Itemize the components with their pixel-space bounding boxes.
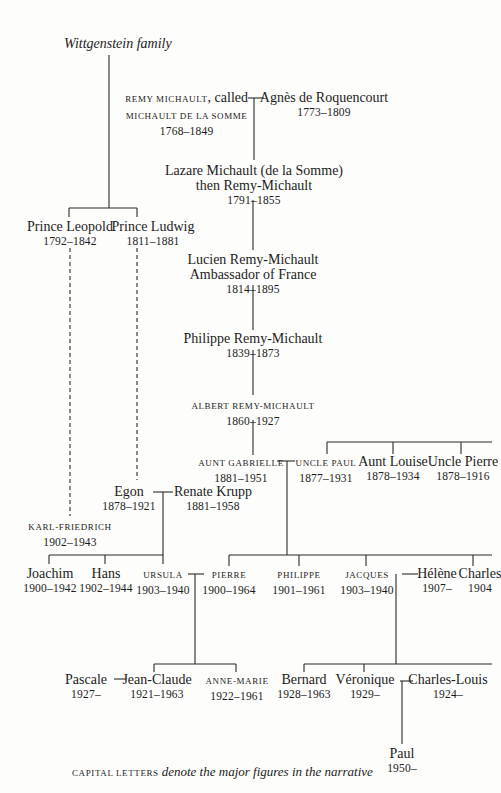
person-name: Paul xyxy=(387,746,417,761)
person-dates: 1814–1895 xyxy=(187,282,318,297)
person-dates: 1839–1873 xyxy=(184,346,323,361)
person-dates: 1791–1855 xyxy=(165,193,343,208)
person-name: Renate Krupp xyxy=(174,484,252,499)
person-name-smallcaps: REMY MICHAULT xyxy=(125,94,207,104)
person-dates: 1768–1849 xyxy=(125,124,248,139)
person-name: Hans xyxy=(79,566,133,581)
person-lucien-remy-michault: Lucien Remy-Michault Ambassador of Franc… xyxy=(187,252,318,297)
legend-caption: CAPITAL LETTERS denote the major figures… xyxy=(72,764,373,780)
person-karl-friedrich: KARL-FRIEDRICH 1902–1943 xyxy=(28,518,111,550)
person-philippe-remy-michault-sr: Philippe Remy-Michault 1839–1873 xyxy=(184,331,323,361)
person-subtitle: Ambassador of France xyxy=(187,267,318,282)
person-name: Pascale xyxy=(65,672,107,687)
person-charles: Charles 1904 xyxy=(459,566,501,596)
person-dates: 1922–1961 xyxy=(206,689,269,704)
person-name: PHILIPPE xyxy=(277,570,320,580)
legend-description: denote the major figures in the narrativ… xyxy=(162,764,373,779)
person-dates: 1927– xyxy=(65,687,107,702)
person-jean-claude: Jean-Claude 1921–1963 xyxy=(122,672,191,702)
wittgenstein-family-heading: Wittgenstein family xyxy=(64,36,172,52)
person-name: UNCLE PAUL xyxy=(296,458,357,468)
person-egon: Egon 1878–1921 xyxy=(102,484,156,514)
person-name: ANNE-MARIE xyxy=(206,676,269,686)
person-aunt-gabrielle: AUNT GABRIELLE 1881–1951 xyxy=(198,454,283,486)
person-name: JACQUES xyxy=(345,570,389,580)
legend-smallcaps-label: CAPITAL LETTERS xyxy=(72,768,159,778)
person-charles-louis: Charles-Louis 1924– xyxy=(408,672,487,702)
person-subtitle: then Remy-Michault xyxy=(165,178,343,193)
person-paul: Paul 1950– xyxy=(387,746,417,776)
person-dates: 1928–1963 xyxy=(277,687,331,702)
person-dates: 1950– xyxy=(387,761,417,776)
person-dates: 1860–1927 xyxy=(191,414,314,429)
person-name: KARL-FRIEDRICH xyxy=(28,522,111,532)
person-bernard: Bernard 1928–1963 xyxy=(277,672,331,702)
person-dates: 1878–1921 xyxy=(102,499,156,514)
person-agnes-de-roquencourt: Agnès de Roquencourt 1773–1809 xyxy=(260,90,388,120)
person-name: Prince Leopold xyxy=(27,219,113,234)
person-helene: Hélène 1907– xyxy=(417,566,457,596)
person-name: Lazare Michault (de la Somme) xyxy=(165,163,343,178)
person-remy-michault: REMY MICHAULT, called MICHAULT DE LA SOM… xyxy=(125,90,248,139)
person-name: Charles xyxy=(459,566,501,581)
person-name: Lucien Remy-Michault xyxy=(187,252,318,267)
person-joachim: Joachim 1900–1942 xyxy=(23,566,77,596)
person-name: Jean-Claude xyxy=(122,672,191,687)
person-name: PIERRE xyxy=(212,570,247,580)
person-name: Egon xyxy=(102,484,156,499)
person-name: Uncle Pierre xyxy=(428,454,498,469)
person-philippe: PHILIPPE 1901–1961 xyxy=(272,566,326,598)
person-name-suffix: , called xyxy=(208,90,248,105)
person-dates: 1903–1940 xyxy=(340,583,394,598)
person-prince-ludwig: Prince Ludwig 1811–1881 xyxy=(112,219,195,249)
person-uncle-pierre: Uncle Pierre 1878–1916 xyxy=(428,454,498,484)
person-uncle-paul: UNCLE PAUL 1877–1931 xyxy=(296,454,357,486)
person-dates: 1878–1916 xyxy=(428,469,498,484)
person-dates: 1773–1809 xyxy=(260,105,388,120)
person-alias: MICHAULT DE LA SOMME xyxy=(126,111,248,121)
person-name: Philippe Remy-Michault xyxy=(184,331,323,346)
person-dates: 1877–1931 xyxy=(296,471,357,486)
person-dates: 1901–1961 xyxy=(272,583,326,598)
person-name: Bernard xyxy=(277,672,331,687)
person-dates: 1811–1881 xyxy=(112,234,195,249)
person-albert-remy-michault: ALBERT REMY-MICHAULT 1860–1927 xyxy=(191,397,314,429)
person-name: Prince Ludwig xyxy=(112,219,195,234)
person-pierre: PIERRE 1900–1964 xyxy=(202,566,256,598)
person-name: Joachim xyxy=(23,566,77,581)
person-lazare-michault: Lazare Michault (de la Somme) then Remy-… xyxy=(165,163,343,208)
person-name: Aunt Louise xyxy=(358,454,428,469)
person-dates: 1881–1958 xyxy=(174,499,252,514)
person-dates: 1903–1940 xyxy=(136,583,190,598)
person-hans: Hans 1902–1944 xyxy=(79,566,133,596)
person-name: AUNT GABRIELLE xyxy=(198,458,283,468)
person-dates: 1904 xyxy=(459,581,501,596)
person-dates: 1902–1943 xyxy=(28,535,111,550)
person-dates: 1907– xyxy=(417,581,457,596)
person-veronique: Véronique 1929– xyxy=(335,672,394,702)
person-name: URSULA xyxy=(143,570,183,580)
person-dates: 1924– xyxy=(408,687,487,702)
person-dates: 1878–1934 xyxy=(358,469,428,484)
person-ursula: URSULA 1903–1940 xyxy=(136,566,190,598)
person-dates: 1792–1842 xyxy=(27,234,113,249)
person-pascale: Pascale 1927– xyxy=(65,672,107,702)
person-name: Charles-Louis xyxy=(408,672,487,687)
person-name: Agnès de Roquencourt xyxy=(260,90,388,105)
person-anne-marie: ANNE-MARIE 1922–1961 xyxy=(206,672,269,704)
person-name: ALBERT REMY-MICHAULT xyxy=(191,401,314,411)
person-dates: 1921–1963 xyxy=(122,687,191,702)
person-dates: 1902–1944 xyxy=(79,581,133,596)
person-dates: 1900–1942 xyxy=(23,581,77,596)
person-renate-krupp: Renate Krupp 1881–1958 xyxy=(174,484,252,514)
person-aunt-louise: Aunt Louise 1878–1934 xyxy=(358,454,428,484)
person-dates: 1900–1964 xyxy=(202,583,256,598)
person-prince-leopold: Prince Leopold 1792–1842 xyxy=(27,219,113,249)
person-dates: 1929– xyxy=(335,687,394,702)
person-name: Hélène xyxy=(417,566,457,581)
person-jacques: JACQUES 1903–1940 xyxy=(340,566,394,598)
person-name: Véronique xyxy=(335,672,394,687)
